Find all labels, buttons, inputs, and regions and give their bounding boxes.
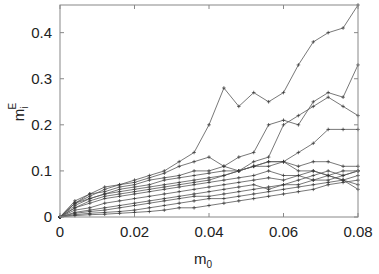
- plus-marker-icon: [252, 160, 256, 164]
- plus-marker-icon: [163, 171, 167, 175]
- plus-marker-icon: [312, 105, 316, 109]
- plus-marker-icon: [177, 165, 181, 169]
- x-tick-label: 0.06: [269, 223, 298, 240]
- y-tick-label: 0.4: [31, 24, 52, 41]
- plus-marker-icon: [267, 190, 271, 194]
- plus-marker-icon: [341, 169, 345, 173]
- plus-marker-icon: [148, 206, 152, 210]
- plus-marker-icon: [103, 212, 107, 216]
- plus-marker-icon: [192, 169, 196, 173]
- plus-marker-icon: [312, 188, 316, 192]
- plus-marker-icon: [177, 201, 181, 205]
- plus-marker-icon: [163, 188, 167, 192]
- plus-marker-icon: [312, 169, 316, 173]
- plus-marker-icon: [222, 197, 226, 201]
- plus-marker-icon: [267, 123, 271, 127]
- plus-marker-icon: [297, 185, 301, 189]
- plus-marker-icon: [177, 190, 181, 194]
- plus-marker-icon: [118, 206, 122, 210]
- plus-marker-icon: [282, 183, 286, 187]
- plus-marker-icon: [222, 165, 226, 169]
- plus-marker-icon: [252, 188, 256, 192]
- plus-marker-icon: [207, 123, 211, 127]
- x-tick-label: 0.02: [120, 223, 149, 240]
- plus-marker-icon: [207, 190, 211, 194]
- plus-marker-icon: [192, 174, 196, 178]
- plus-marker-icon: [192, 183, 196, 187]
- x-axis-label-main: m: [194, 250, 207, 267]
- plus-marker-icon: [326, 160, 330, 164]
- plus-marker-icon: [341, 128, 345, 132]
- plus-marker-icon: [312, 178, 316, 182]
- plus-marker-icon: [207, 171, 211, 175]
- plus-marker-icon: [148, 178, 152, 182]
- y-axis-label: miE: [7, 102, 30, 121]
- plus-marker-icon: [282, 118, 286, 122]
- plus-marker-icon: [267, 185, 271, 189]
- x-tick-labels: 00.020.040.060.08: [56, 223, 373, 240]
- plus-marker-icon: [163, 204, 167, 208]
- plus-marker-icon: [222, 174, 226, 178]
- plus-marker-icon: [282, 174, 286, 178]
- plus-marker-icon: [282, 192, 286, 196]
- plus-marker-icon: [207, 197, 211, 201]
- plus-marker-icon: [133, 197, 137, 201]
- plus-marker-icon: [341, 165, 345, 169]
- plus-marker-icon: [326, 169, 330, 173]
- plus-marker-icon: [133, 204, 137, 208]
- plus-marker-icon: [297, 190, 301, 194]
- y-tick-label: 0.1: [31, 162, 52, 179]
- plus-marker-icon: [163, 192, 167, 196]
- plus-marker-icon: [192, 199, 196, 203]
- y-tick-labels: 00.10.20.30.4: [31, 24, 52, 225]
- plus-marker-icon: [326, 183, 330, 187]
- plus-marker-icon: [237, 199, 241, 203]
- plus-marker-icon: [222, 201, 226, 205]
- plus-marker-icon: [177, 197, 181, 201]
- plus-marker-icon: [207, 204, 211, 208]
- plus-marker-icon: [282, 178, 286, 182]
- x-tick-label: 0.08: [343, 223, 372, 240]
- y-axis-label-sup: E: [7, 102, 18, 109]
- plus-marker-icon: [237, 181, 241, 185]
- plus-marker-icon: [163, 208, 167, 212]
- plus-marker-icon: [222, 178, 226, 182]
- plus-marker-icon: [297, 174, 301, 178]
- plus-marker-icon: [177, 206, 181, 210]
- plus-marker-icon: [297, 178, 301, 182]
- plus-marker-icon: [341, 105, 345, 109]
- plus-marker-icon: [237, 185, 241, 189]
- plus-marker-icon: [252, 151, 256, 155]
- y-tick-label: 0.3: [31, 70, 52, 87]
- plus-marker-icon: [267, 165, 271, 169]
- plus-marker-icon: [252, 174, 256, 178]
- plus-marker-icon: [237, 194, 241, 198]
- plus-marker-icon: [267, 194, 271, 198]
- plus-marker-icon: [163, 178, 167, 182]
- plus-marker-icon: [222, 169, 226, 173]
- plus-marker-icon: [237, 190, 241, 194]
- y-axis-label-main: m: [10, 109, 27, 122]
- plus-marker-icon: [267, 155, 271, 159]
- plus-marker-icon: [148, 210, 152, 214]
- plus-marker-icon: [177, 185, 181, 189]
- plus-marker-icon: [341, 95, 345, 99]
- plus-marker-icon: [118, 212, 122, 216]
- plus-marker-icon: [192, 160, 196, 164]
- plus-marker-icon: [148, 194, 152, 198]
- plus-marker-icon: [312, 160, 316, 164]
- plus-marker-icon: [267, 169, 271, 173]
- plus-marker-icon: [207, 181, 211, 185]
- plus-marker-icon: [282, 160, 286, 164]
- plus-marker-icon: [222, 192, 226, 196]
- y-axis-label-sub: i: [19, 106, 30, 108]
- line-chart: 00.020.040.060.08 00.10.20.30.4 m0 miE: [0, 0, 379, 274]
- plus-marker-icon: [312, 183, 316, 187]
- plus-marker-icon: [222, 183, 226, 187]
- plus-marker-icon: [326, 174, 330, 178]
- plus-marker-icon: [103, 197, 107, 201]
- plus-marker-icon: [148, 201, 152, 205]
- plus-marker-icon: [252, 178, 256, 182]
- y-tick-label: 0.2: [31, 116, 52, 133]
- plus-marker-icon: [252, 197, 256, 201]
